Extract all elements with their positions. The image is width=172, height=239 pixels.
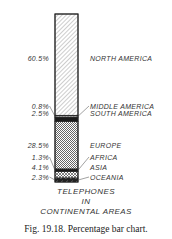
figure-caption: Fig. 19.18. Percentage bar chart.	[0, 224, 172, 234]
category-label: MIDDLE AMERICA	[90, 103, 154, 110]
value-label: 60.5%	[28, 55, 49, 62]
value-label: 28.5%	[27, 142, 49, 149]
leader-line	[78, 157, 89, 170]
chart-title-line: CONTINENTAL AREAS	[40, 207, 132, 216]
value-label: 4.1%	[32, 164, 49, 171]
category-label: OCEANIA	[90, 174, 124, 181]
bar-segment-asia	[55, 171, 78, 178]
bar-labels: 60.5%NORTH AMERICA0.8%MIDDLE AMERICA2.5%…	[27, 55, 155, 181]
leader-line	[50, 106, 56, 116]
bar-segment-europe	[55, 121, 78, 169]
value-label: 1.3%	[32, 154, 49, 161]
category-label: EUROPE	[90, 142, 121, 149]
chart-title: TELEPHONESINCONTINENTAL AREAS	[40, 187, 132, 216]
value-label: 2.5%	[31, 110, 49, 117]
leader-line	[50, 177, 56, 180]
category-label: SOUTH AMERICA	[90, 110, 152, 117]
chart-title-line: IN	[82, 197, 91, 206]
value-label: 0.8%	[32, 103, 49, 110]
bar-segment-oceania	[55, 178, 78, 182]
value-label: 2.3%	[31, 174, 49, 181]
bar-segment-north-america	[55, 14, 78, 115]
category-label: NORTH AMERICA	[90, 55, 152, 62]
leader-line	[78, 177, 89, 180]
bar-segment-south-america	[55, 117, 78, 121]
percentage-bar-chart: 60.5%NORTH AMERICA0.8%MIDDLE AMERICA2.5%…	[0, 0, 172, 239]
leader-line	[50, 157, 56, 170]
leader-line	[78, 106, 89, 116]
category-label: ASIA	[89, 164, 107, 171]
category-label: AFRICA	[89, 154, 117, 161]
chart-title-line: TELEPHONES	[57, 187, 115, 196]
stacked-bar	[55, 14, 78, 182]
